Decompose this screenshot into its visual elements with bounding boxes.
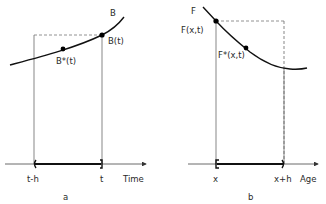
tick-label-x: x: [213, 174, 218, 184]
panel-label-a: a: [63, 192, 68, 202]
curve-label-b: B: [110, 8, 116, 18]
axis-label-age: Age: [300, 174, 316, 184]
panel-b: F F(x,t) F*(x,t) x x+h Age b: [181, 6, 318, 202]
panel-a: B B(t) B*(t) t-h t Time a: [5, 8, 146, 202]
point-b-star-t: [61, 47, 66, 52]
tick-label-x-plus-h: x+h: [274, 174, 292, 184]
panel-label-b: b: [248, 192, 253, 202]
tick-label-t: t: [100, 174, 104, 184]
diagram-canvas: B B(t) B*(t) t-h t Time a F F(x,t) F*(x,…: [0, 0, 326, 204]
label-b-star-t: B*(t): [56, 56, 76, 66]
tick-label-t-minus-h: t-h: [27, 174, 39, 184]
point-f-x-t: [213, 18, 218, 23]
label-b-t: B(t): [108, 36, 124, 46]
label-f-x-t: F(x,t): [181, 25, 204, 35]
point-b-t: [99, 32, 104, 37]
axis-label-time: Time: [122, 174, 144, 184]
label-f-star-x-t: F*(x,t): [218, 50, 245, 60]
curve-label-f: F: [191, 6, 196, 16]
